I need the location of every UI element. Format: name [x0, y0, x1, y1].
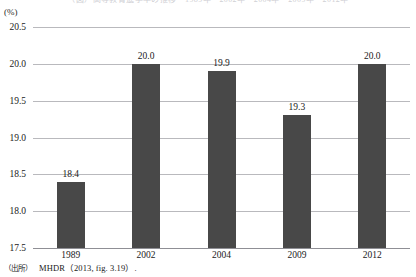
x-axis-tick-label: 2004 [192, 250, 252, 261]
bar [208, 71, 236, 248]
source-note: （出所）MHDR（2013, fig. 3.19）. [4, 263, 137, 274]
bar-value-label: 20.0 [350, 51, 394, 62]
x-axis-tick-label: 1989 [41, 250, 101, 261]
y-axis-tick-label: 17.5 [0, 243, 26, 253]
figure-container: （図）高等教育進学率の推移 1989年・2002年・2004年・2009年・20… [0, 0, 416, 277]
y-axis-unit-label: (%) [4, 7, 18, 17]
bar-value-label: 19.3 [275, 102, 319, 113]
gridline [33, 27, 410, 28]
y-axis-tick-label: 18.5 [0, 169, 26, 179]
x-axis-tick-label: 2002 [116, 250, 176, 261]
chart-title: （図）高等教育進学率の推移 1989年・2002年・2004年・2009年・20… [0, 0, 416, 4]
bar-value-label: 19.9 [200, 58, 244, 69]
bar [283, 115, 311, 248]
bar-value-label: 18.4 [49, 169, 93, 180]
bar [132, 64, 160, 248]
y-axis-tick-label: 20.5 [0, 22, 26, 32]
x-axis-tick-label: 2012 [342, 250, 402, 261]
y-axis-tick-label: 19.0 [0, 133, 26, 143]
plot-area: 20.520.019.519.018.518.017.518.420.019.9… [33, 27, 410, 248]
x-axis-tick-label: 2009 [267, 250, 327, 261]
gridline [33, 248, 410, 249]
source-note-text: MHDR（2013, fig. 3.19）. [39, 263, 137, 273]
bar-value-label: 20.0 [124, 51, 168, 62]
bar [358, 64, 386, 248]
source-note-label: （出所） [4, 264, 32, 273]
y-axis-tick-label: 19.5 [0, 96, 26, 106]
y-axis-tick-label: 18.0 [0, 206, 26, 216]
bar [57, 182, 85, 248]
y-axis-tick-label: 20.0 [0, 59, 26, 69]
